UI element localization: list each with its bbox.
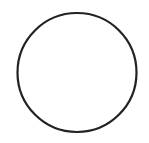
circle-outline bbox=[18, 13, 137, 132]
canvas bbox=[0, 0, 149, 143]
circle-graphic bbox=[0, 0, 149, 143]
